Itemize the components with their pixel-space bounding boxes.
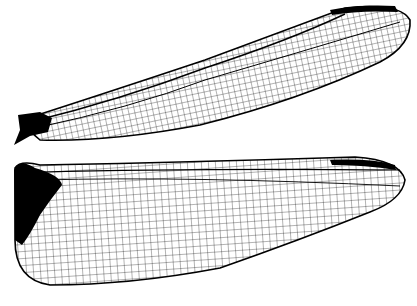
hindwing bbox=[0, 150, 417, 306]
wings-illustration bbox=[0, 0, 417, 306]
forewing bbox=[0, 0, 417, 160]
